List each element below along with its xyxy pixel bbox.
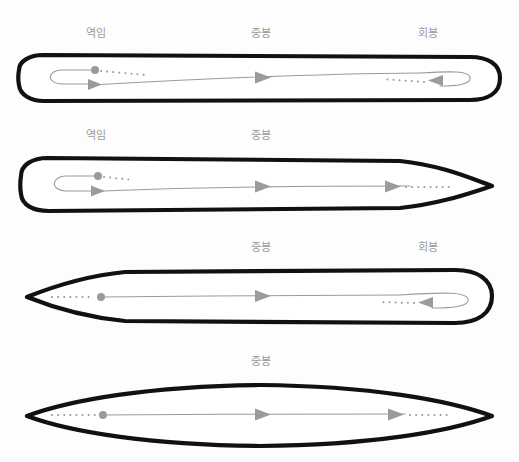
diagram-1: 역임 중봉 회봉 — [0, 0, 519, 118]
dotted-trail-end-3 — [378, 302, 414, 303]
label-yeogim-2: 역임 — [86, 126, 107, 142]
diagram-4: 중봉 — [0, 348, 519, 462]
diagram-2: 역임 중봉 — [0, 118, 519, 233]
stroke-shape-3 — [0, 259, 519, 341]
label-jungbong-2: 중봉 — [251, 126, 272, 142]
label-yeogim-1: 역임 — [86, 24, 107, 40]
label-hoebong-3: 회봉 — [418, 238, 439, 254]
diagram-3: 중봉 회봉 — [0, 233, 519, 348]
label-jungbong-4: 중봉 — [251, 352, 272, 368]
label-hoebong-1: 회봉 — [418, 24, 439, 40]
stroke-shape-2 — [0, 146, 519, 226]
label-jungbong-3: 중봉 — [251, 238, 272, 254]
stroke-shape-1 — [0, 44, 519, 114]
stroke-shape-4 — [0, 372, 519, 456]
diagram-page: 역임 중봉 회봉 역임 중봉 — [0, 0, 519, 462]
label-jungbong-1: 중봉 — [251, 24, 272, 40]
